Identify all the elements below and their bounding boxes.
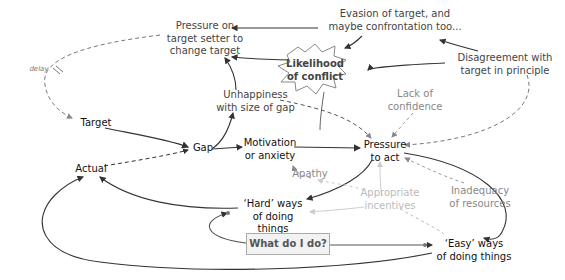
node-appropriate-incentives: Appropriate incentives: [355, 187, 425, 212]
node-likelihood-of-conflict: Likelihood of conflict: [280, 58, 350, 83]
node-lack-of-confidence: Lack of confidence: [385, 88, 445, 113]
node-pressure-on-target-setter: Pressure on target setter to change targ…: [160, 20, 250, 58]
node-actual: Actual: [74, 163, 108, 176]
delay-label: delay: [28, 63, 50, 76]
question-box: What do I do?: [246, 233, 330, 255]
node-gap: Gap: [190, 142, 216, 155]
node-target: Target: [76, 117, 116, 130]
node-inadequacy-of-resources: Inadequacy of resources: [440, 185, 520, 210]
node-apathy: Apathy: [290, 168, 330, 181]
node-pressure-to-act: Pressure to act: [360, 139, 410, 164]
node-hard-ways: ‘Hard’ ways of doing things: [238, 198, 308, 236]
node-easy-ways: ‘Easy’ ways of doing things: [434, 238, 514, 263]
node-evasion: Evasion of target, and maybe confrontati…: [320, 8, 470, 33]
node-motivation: Motivation or anxiety: [240, 137, 300, 162]
node-unhappiness: Unhappiness with size of gap: [208, 89, 303, 114]
node-disagreement: Disagreement with target in principle: [445, 52, 565, 77]
